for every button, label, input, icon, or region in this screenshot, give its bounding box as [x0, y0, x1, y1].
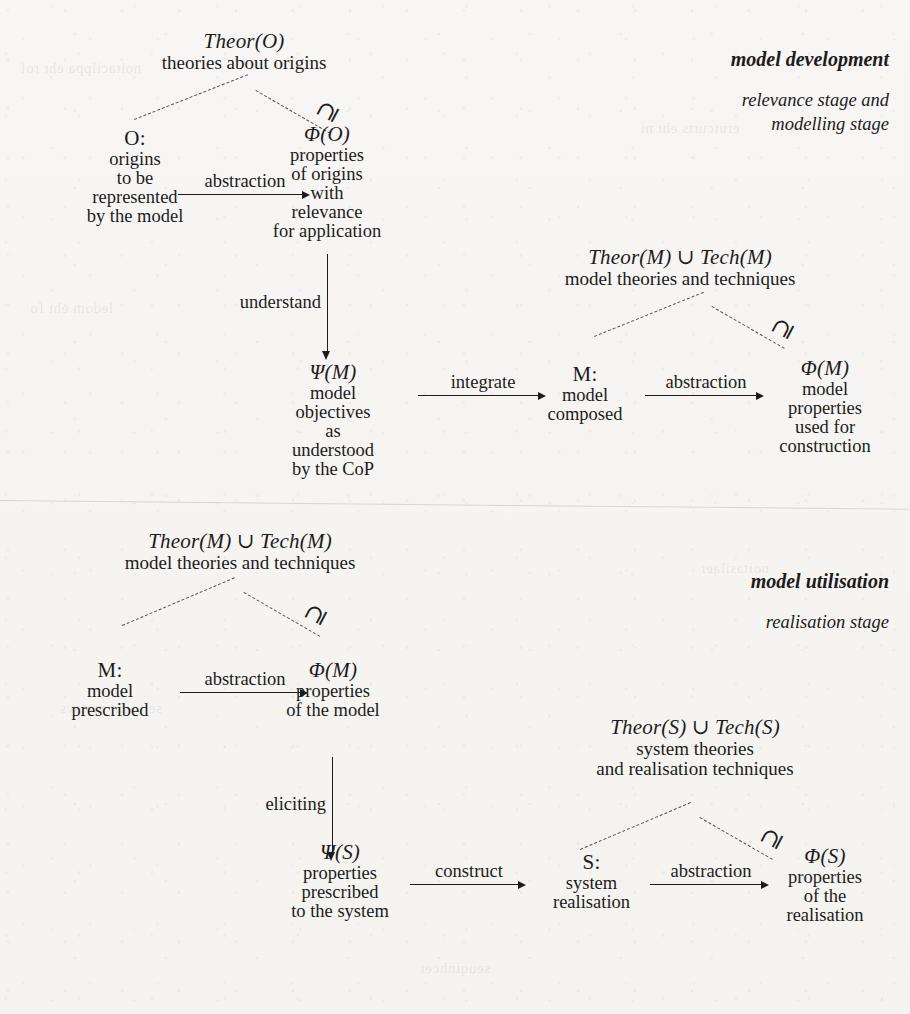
arrow-label: integrate [451, 372, 516, 393]
node-line: model [525, 386, 645, 405]
node-line: origins [35, 150, 235, 169]
node-line: by the model [35, 207, 235, 226]
node-model-prescribed: M: model prescribed [40, 660, 180, 720]
stage-subtitle-line-2: modelling stage [539, 112, 889, 136]
superset-symbol-m2: ⊇ [301, 601, 330, 629]
node-properties-of-the-model: Φ(M) properties of the model [238, 660, 428, 720]
universe-label-theor-m: Theor(M) ∪ Tech(M) model theories and te… [505, 246, 855, 289]
universe-description: model theories and techniques [65, 553, 415, 573]
node-realisation-properties: Φ(S) properties of the realisation [745, 846, 905, 925]
universe-description: system theories and realisation techniqu… [525, 739, 865, 779]
node-properties-of-origins: Φ(O) properties of origins with relevanc… [237, 124, 417, 241]
arrow-label: abstraction [670, 861, 751, 882]
universe-symbol: Theor(M) ∪ Tech(M) [65, 530, 415, 552]
stage-heading-model-development: model development relevance stage and mo… [539, 48, 889, 136]
node-description: model composed [525, 386, 645, 424]
arrow-head [322, 351, 330, 360]
node-description: properties of the model [238, 682, 428, 720]
universe-symbol: Theor(O) [119, 30, 369, 52]
node-description: system realisation [524, 874, 659, 912]
stage-heading-model-utilisation: model utilisation realisation stage [539, 570, 889, 634]
node-line: with [237, 184, 417, 203]
node-description: model prescribed [40, 682, 180, 720]
universe-label-theor-o: Theor(O) theories about origins [119, 30, 369, 73]
node-line: of the [745, 887, 905, 906]
node-description: model properties used for construction [740, 380, 910, 455]
stage-subtitle-line-1: realisation stage [539, 610, 889, 634]
membership-dash-left [594, 292, 704, 337]
arrow-shaft [418, 395, 540, 396]
arrow-shaft [410, 884, 520, 885]
node-line: as [243, 422, 423, 441]
node-line: model [740, 380, 910, 399]
node-line: composed [525, 405, 645, 424]
node-model-objectives: Ψ(M) model objectives as understood by t… [243, 362, 423, 479]
node-line: prescribed [40, 701, 180, 720]
node-symbol: Ψ(S) [240, 842, 440, 863]
membership-dash-left [134, 74, 248, 120]
universe-description-line: and realisation techniques [525, 759, 865, 779]
node-description: properties of origins with relevance for… [237, 146, 417, 240]
node-line: of the model [238, 701, 428, 720]
superset-symbol-m: ⊇ [768, 315, 797, 343]
arrow-shaft [332, 757, 333, 853]
node-line: model [243, 384, 423, 403]
arrow-label: eliciting [265, 794, 326, 815]
node-line: relevance [237, 203, 417, 222]
node-system-realisation: S: system realisation [524, 852, 659, 912]
stage-title: model development [539, 48, 889, 71]
arrow-label: understand [240, 292, 321, 313]
node-symbol: Φ(M) [740, 358, 910, 379]
node-symbol: S: [524, 852, 659, 873]
node-model-composed: M: model composed [525, 364, 645, 424]
node-symbol: Φ(M) [238, 660, 428, 681]
universe-description: theories about origins [119, 53, 369, 73]
node-line: properties [238, 682, 428, 701]
node-line: properties [740, 399, 910, 418]
node-description: model objectives as understood by the Co… [243, 384, 423, 478]
universe-label-theor-s: Theor(S) ∪ Tech(S) system theories and r… [525, 716, 865, 780]
node-symbol: M: [40, 660, 180, 681]
scan-bleed-artifact: seuqinhcet [420, 960, 490, 977]
universe-symbol: Theor(M) ∪ Tech(M) [505, 246, 855, 268]
node-line: properties [237, 146, 417, 165]
arrow-shaft [327, 254, 328, 352]
node-line: realisation [745, 906, 905, 925]
arrow-construct: construct [410, 862, 528, 892]
scan-bleed-artifact: ledom eht fo [30, 300, 113, 317]
node-line: construction [740, 437, 910, 456]
node-symbol: Φ(O) [237, 124, 417, 145]
membership-dash-left [580, 802, 691, 850]
arrow-understand: understand [313, 254, 343, 362]
stage-subtitle-line-1: relevance stage and [539, 88, 889, 112]
universe-description-line: system theories [525, 739, 865, 759]
arrow-label: construct [435, 861, 503, 882]
node-line: of origins [237, 165, 417, 184]
node-model-properties: Φ(M) model properties used for construct… [740, 358, 910, 456]
node-line: model [40, 682, 180, 701]
node-line: by the CoP [243, 460, 423, 479]
node-line: properties [745, 868, 905, 887]
universe-description: model theories and techniques [505, 269, 855, 289]
node-symbol: M: [525, 364, 645, 385]
node-line: realisation [524, 893, 659, 912]
node-line: used for [740, 418, 910, 437]
membership-dash-left [122, 577, 235, 626]
node-symbol: O: [35, 128, 235, 149]
node-symbol: Φ(S) [745, 846, 905, 867]
node-description: properties of the realisation [745, 868, 905, 925]
stage-title: model utilisation [539, 570, 889, 593]
node-line: system [524, 874, 659, 893]
section-divider [0, 500, 910, 510]
node-line: to the system [240, 902, 440, 921]
node-symbol: Ψ(M) [243, 362, 423, 383]
universe-symbol: Theor(S) ∪ Tech(S) [525, 716, 865, 738]
node-line: understood [243, 441, 423, 460]
arrow-label: abstraction [665, 372, 746, 393]
node-line: for application [237, 222, 417, 241]
universe-label-theor-m-2: Theor(M) ∪ Tech(M) model theories and te… [65, 530, 415, 573]
node-line: objectives [243, 403, 423, 422]
